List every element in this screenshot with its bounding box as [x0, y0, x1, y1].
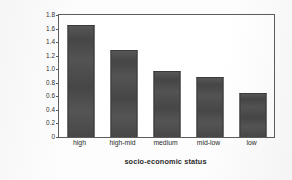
x-axis-title: socio-economic status	[58, 157, 273, 166]
bar-high-mid[interactable]	[110, 50, 137, 137]
y-axis-tick-mark	[56, 137, 59, 138]
y-axis-tick-label: 0	[33, 133, 55, 140]
y-axis-tick-label: 0.2	[33, 119, 55, 126]
bar-slot	[145, 15, 188, 137]
y-axis-tick-labels: 1.81.61.41.21.00.80.60.40.20	[33, 11, 55, 139]
y-axis-tick-label: 0.8	[33, 78, 55, 85]
x-axis-tick-labels: highhigh-midmediummid-lowlow	[58, 139, 275, 151]
bar-slot	[231, 15, 274, 137]
bar-slot	[59, 15, 102, 137]
x-axis-tick-label: medium	[153, 139, 177, 146]
x-axis-tick-label: high	[73, 139, 86, 146]
plot-inner	[59, 15, 274, 137]
y-axis-tick-label: 1.8	[33, 11, 55, 18]
y-axis-tick-label: 1.2	[33, 51, 55, 58]
plot-area	[58, 14, 275, 138]
bar-low[interactable]	[239, 93, 266, 137]
bar-slot	[102, 15, 145, 137]
x-axis-tick-label: low	[246, 139, 256, 146]
y-axis-tick-label: 1.6	[33, 24, 55, 31]
y-axis-tick-label: 0.6	[33, 92, 55, 99]
bar-mid-low[interactable]	[196, 77, 223, 137]
bar-high[interactable]	[67, 25, 94, 137]
y-axis-tick-label: 0.4	[33, 105, 55, 112]
bar-slot	[188, 15, 231, 137]
x-axis-tick-label: mid-low	[197, 139, 220, 146]
bar-chart-figure: age-adjusted incidence (per 100,000) 1.8…	[0, 0, 292, 180]
bar-medium[interactable]	[153, 71, 180, 137]
y-axis-tick-label: 1.0	[33, 65, 55, 72]
x-axis-tick-label: high-mid	[109, 139, 135, 146]
y-axis-tick-label: 1.4	[33, 38, 55, 45]
